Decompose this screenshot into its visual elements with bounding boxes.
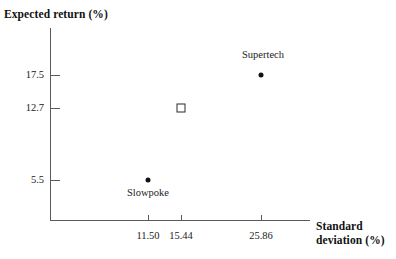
data-point-label-supertech: Supertech — [242, 49, 284, 60]
data-point-supertech — [259, 73, 264, 78]
x-tick-15-44 — [181, 215, 182, 221]
y-axis-line — [50, 28, 51, 221]
x-tick-11-50 — [148, 215, 149, 221]
y-tick-label-12-7: 12.7 — [26, 102, 44, 113]
y-axis-title: Expected return (%) — [4, 8, 108, 20]
scatter-chart: Expected return (%) Standard deviation (… — [0, 0, 396, 259]
x-tick-label-25-86: 25.86 — [249, 230, 273, 241]
data-point-portfolio — [177, 104, 186, 113]
data-point-label-slowpoke: Slowpoke — [127, 187, 169, 198]
x-tick-25-86 — [261, 215, 262, 221]
x-axis-line — [50, 220, 310, 221]
y-tick-17-5 — [51, 75, 60, 76]
y-tick-label-17-5: 17.5 — [26, 69, 44, 80]
x-axis-title: Standard deviation (%) — [316, 219, 394, 247]
y-tick-12-7 — [51, 108, 60, 109]
y-tick-label-5-5: 5.5 — [31, 174, 44, 185]
y-tick-5-5 — [51, 180, 60, 181]
x-tick-label-15-44: 15.44 — [169, 230, 193, 241]
data-point-slowpoke — [146, 178, 151, 183]
x-tick-label-11-50: 11.50 — [136, 230, 159, 241]
